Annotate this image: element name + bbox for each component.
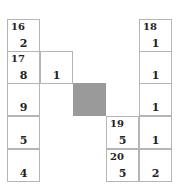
cell-value: 1	[140, 37, 171, 50]
grid-cell[interactable]: 5	[7, 116, 40, 149]
grid-cell[interactable]: 1	[139, 83, 172, 116]
cell-value: 1	[140, 69, 171, 82]
grid-cell[interactable]: 18 1	[139, 19, 172, 52]
cell-value: 8	[8, 69, 39, 82]
grid-cell[interactable]: 4	[7, 149, 40, 182]
grid-cell[interactable]: 20 5	[106, 149, 139, 182]
cell-value: 2	[140, 167, 171, 180]
cell-value: 1	[140, 134, 171, 147]
cell-value: 1	[140, 101, 171, 114]
clue-number: 20	[110, 151, 124, 163]
grid-cell[interactable]: 1	[139, 116, 172, 149]
grid-cell[interactable]: 1	[40, 51, 73, 84]
puzzle-board: 16 2 17 8 1 9 5 4 19 5 20 5 18 1 1 1	[0, 0, 181, 190]
grid-cell[interactable]: 19 5	[106, 116, 139, 149]
blocked-cell	[73, 83, 106, 116]
cell-value: 2	[8, 37, 39, 50]
grid-cell[interactable]: 16 2	[7, 19, 40, 52]
grid-cell[interactable]: 1	[139, 51, 172, 84]
cell-value: 5	[107, 167, 138, 180]
clue-number: 16	[11, 21, 25, 33]
clue-number: 19	[110, 118, 124, 130]
grid-cell[interactable]: 2	[139, 149, 172, 182]
cell-value: 4	[8, 167, 39, 180]
cell-value: 5	[107, 134, 138, 147]
clue-number: 18	[143, 21, 157, 33]
cell-value: 1	[41, 69, 72, 82]
cell-value: 5	[8, 134, 39, 147]
grid-cell[interactable]: 9	[7, 83, 40, 116]
grid-cell[interactable]: 17 8	[7, 51, 40, 84]
clue-number: 17	[11, 53, 25, 65]
cell-value: 9	[8, 101, 39, 114]
